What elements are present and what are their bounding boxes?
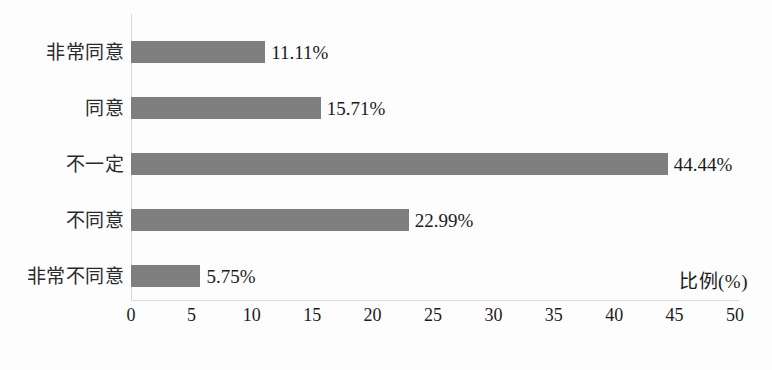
bar: 11.11% xyxy=(131,41,265,63)
x-axis-tick-label: 50 xyxy=(726,306,744,324)
category-label: 非常不同意 xyxy=(27,267,125,286)
bar-value-label: 44.44% xyxy=(674,155,733,174)
x-axis-tick-label: 20 xyxy=(364,306,382,324)
bar: 22.99% xyxy=(131,209,409,231)
x-axis-tick-label: 10 xyxy=(243,306,261,324)
category-label: 非常同意 xyxy=(46,43,124,62)
x-axis-tick-label: 30 xyxy=(484,306,502,324)
bar: 5.75% xyxy=(131,265,200,287)
bar-row: 不同意22.99% xyxy=(131,192,735,248)
x-axis-tick-label: 45 xyxy=(666,306,684,324)
x-axis-tick-label: 5 xyxy=(187,306,196,324)
bar-chart: 非常同意11.11%同意15.71%不一定44.44%不同意22.99%非常不同… xyxy=(0,0,772,370)
category-label: 同意 xyxy=(85,99,124,118)
bar-value-label: 22.99% xyxy=(415,211,474,230)
bar-value-label: 11.11% xyxy=(271,43,328,62)
x-axis-tick-label: 15 xyxy=(303,306,321,324)
bar: 15.71% xyxy=(131,97,321,119)
bar-row: 非常不同意5.75% xyxy=(131,248,735,304)
bar-row: 不一定44.44% xyxy=(131,136,735,192)
category-label: 不同意 xyxy=(66,211,125,230)
category-label: 不一定 xyxy=(66,155,125,174)
bar-value-label: 5.75% xyxy=(206,267,255,286)
plot-area: 非常同意11.11%同意15.71%不一定44.44%不同意22.99%非常不同… xyxy=(131,14,735,300)
bar: 44.44% xyxy=(131,153,668,175)
bar-row: 同意15.71% xyxy=(131,80,735,136)
x-axis-tick-label: 25 xyxy=(424,306,442,324)
x-axis-tick-label: 0 xyxy=(127,306,136,324)
bar-row: 非常同意11.11% xyxy=(131,24,735,80)
x-axis-tick-label: 40 xyxy=(605,306,623,324)
x-axis-tick-label: 35 xyxy=(545,306,563,324)
bar-value-label: 15.71% xyxy=(327,99,386,118)
x-axis-title: 比例(%) xyxy=(679,272,748,291)
